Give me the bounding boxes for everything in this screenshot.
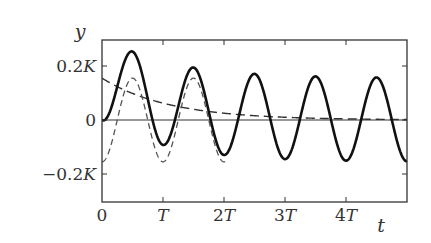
x-tick-label: T (157, 205, 170, 225)
x-axis-label: t (377, 214, 385, 236)
x-tick-label: 2T (213, 205, 237, 225)
y-axis-label: y (74, 20, 86, 42)
chart: 0.2K0−0.2K 0T2T3T4T y t (0, 0, 431, 243)
plot-area (102, 51, 407, 161)
x-tick-label: 0 (97, 205, 108, 225)
y-tick-label: 0 (85, 110, 96, 130)
y-tick-label: −0.2K (42, 164, 97, 184)
x-tick-label: 3T (274, 205, 298, 225)
x-tick-label: 4T (335, 205, 359, 225)
x-ticks: 0T2T3T4T (97, 40, 359, 225)
series-total-response (102, 51, 407, 161)
y-tick-label: 0.2K (56, 56, 97, 76)
